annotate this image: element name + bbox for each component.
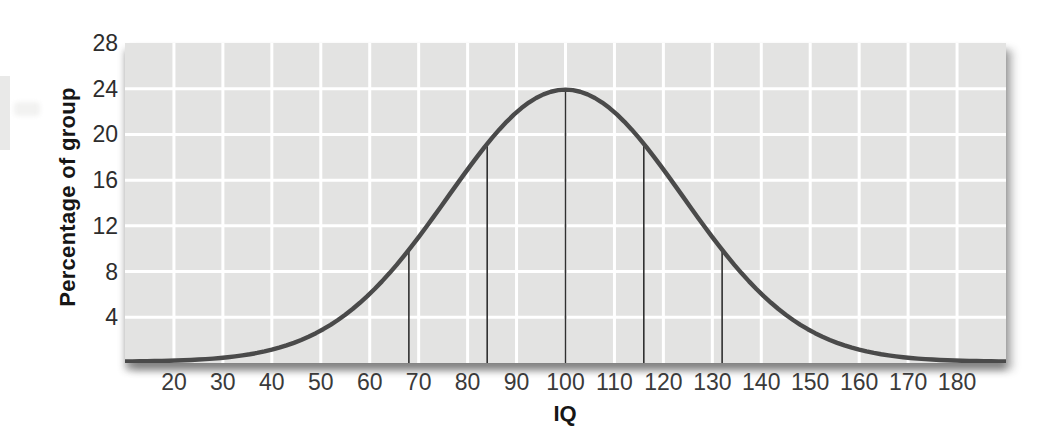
- x-tick-label: 100: [538, 369, 594, 396]
- x-tick-label: 90: [489, 369, 545, 396]
- y-tick-label: 8: [0, 259, 118, 286]
- figure-canvas: Percentage of group 481216202428 2030405…: [0, 0, 1062, 447]
- y-tick-label: 24: [0, 76, 118, 103]
- x-tick-label: 120: [635, 369, 691, 396]
- x-tick-label: 170: [880, 369, 936, 396]
- bell-curve-chart: [125, 43, 1006, 363]
- x-tick-label: 80: [440, 369, 496, 396]
- y-tick-label: 16: [0, 167, 118, 194]
- x-tick-label: 50: [293, 369, 349, 396]
- y-tick-label: 20: [0, 121, 118, 148]
- x-tick-label: 70: [391, 369, 447, 396]
- y-tick-label: 28: [0, 30, 118, 57]
- x-tick-label: 130: [684, 369, 740, 396]
- x-tick-label: 160: [831, 369, 887, 396]
- x-tick-label: 60: [342, 369, 398, 396]
- y-tick-label: 12: [0, 213, 118, 240]
- x-tick-label: 110: [586, 369, 642, 396]
- x-tick-label: 180: [929, 369, 985, 396]
- plot-area: [125, 43, 1006, 363]
- x-tick-label: 20: [146, 369, 202, 396]
- scan-artifact-smudge: [14, 102, 40, 116]
- x-tick-label: 30: [195, 369, 251, 396]
- x-tick-label: 140: [733, 369, 789, 396]
- x-tick-label: 40: [244, 369, 300, 396]
- x-tick-label: 150: [782, 369, 838, 396]
- x-axis-title: IQ: [515, 401, 615, 427]
- y-tick-label: 4: [0, 304, 118, 331]
